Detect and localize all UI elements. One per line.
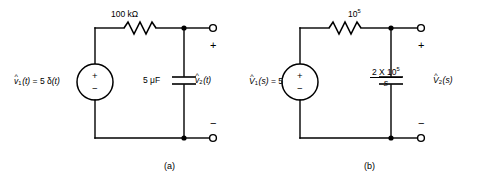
- resistor-symbol-a: [124, 22, 156, 34]
- panel-caption-b: (b): [364, 162, 375, 171]
- capacitor-label-b: 2 X 105 s: [370, 68, 402, 87]
- output-plus-sign-b: +: [418, 40, 424, 51]
- junction-node-top-a: [181, 25, 186, 30]
- source-plus-sign-a: +: [92, 71, 98, 81]
- junction-node-bottom-b: [388, 135, 393, 140]
- junction-node-top-b: [388, 25, 393, 30]
- output-terminal-top-b: [418, 25, 425, 32]
- output-minus-sign-b: −: [418, 118, 424, 129]
- source-plus-sign-b: +: [297, 71, 303, 81]
- source-label-a: ^v1 (t) = 5 δ(t): [14, 77, 60, 86]
- output-label-a: ^v2 (t): [195, 76, 211, 85]
- output-label-b: ^V2 (s): [433, 76, 453, 85]
- capacitor-numerator-b: 2 X 105: [370, 68, 402, 78]
- output-terminal-top-a: [210, 25, 217, 32]
- output-minus-sign-a: −: [210, 118, 216, 129]
- circuit-panel-b-graphics: [243, 0, 485, 183]
- resistor-label-a: 100 kΩ: [111, 10, 138, 19]
- resistor-exponent-b: 5: [357, 8, 360, 14]
- source-minus-sign-b: −: [297, 84, 303, 94]
- source-minus-sign-a: −: [92, 84, 98, 94]
- capacitor-label-a: 5 μF: [143, 76, 160, 85]
- output-terminal-bottom-a: [210, 135, 217, 142]
- output-plus-sign-a: +: [210, 40, 216, 51]
- panel-caption-a: (a): [164, 162, 175, 171]
- source-label-b: ^V1 (s) = 5: [249, 77, 283, 86]
- circuit-panel-a-graphics: [0, 0, 243, 183]
- circuit-figure: ^v1 (t) = 5 δ(t) 100 kΩ 5 μF ^v2 (t) + −…: [0, 0, 485, 183]
- resistor-symbol-b: [329, 22, 361, 34]
- junction-node-bottom-a: [181, 135, 186, 140]
- capacitor-denominator-b: s: [370, 78, 402, 87]
- output-terminal-bottom-b: [418, 135, 425, 142]
- resistor-label-b: 105: [348, 10, 361, 19]
